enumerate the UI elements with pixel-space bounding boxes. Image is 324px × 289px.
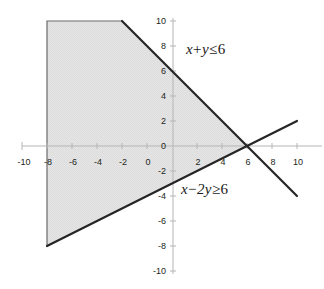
xtick-label: 6 <box>245 157 250 167</box>
xtick-label: 8 <box>270 157 275 167</box>
xtick-label: 2 <box>195 157 200 167</box>
inequality-1-var1: x <box>186 41 193 57</box>
xtick-label: 4 <box>220 157 225 167</box>
ytick-label: 8 <box>140 41 166 51</box>
inequality-label-2: x−2y≥6 <box>181 181 228 198</box>
inequality-2-relation: ≥ <box>212 181 221 197</box>
ytick-label: -10 <box>140 266 166 276</box>
ytick-label: 6 <box>140 66 166 76</box>
xtick-label: -8 <box>44 157 52 167</box>
ytick-label: 2 <box>140 116 166 126</box>
ytick-label: 10 <box>140 16 166 26</box>
inequality-label-1: x+y≤6 <box>186 41 226 58</box>
ytick-label: -6 <box>140 216 166 226</box>
graph-figure: -10 -8 -6 -4 -2 0 2 4 6 8 10 10 8 6 4 2 … <box>0 0 324 289</box>
inequality-2-var1: x <box>181 181 188 197</box>
xtick-label: 10 <box>293 157 303 167</box>
inequality-1-relation: ≤ <box>209 41 218 57</box>
xtick-label: -2 <box>119 157 127 167</box>
ytick-label: 0 <box>140 141 166 151</box>
inequality-2-rhs: 6 <box>221 181 229 197</box>
xtick-label: -6 <box>69 157 77 167</box>
inequality-1-var2: y <box>202 41 209 57</box>
inequality-2-operator: − <box>188 181 197 197</box>
inequality-1-rhs: 6 <box>218 41 226 57</box>
ytick-label: -8 <box>140 241 166 251</box>
xtick-label: -4 <box>94 157 102 167</box>
xtick-label: -10 <box>17 157 30 167</box>
inequality-2-var2: 2y <box>197 181 212 197</box>
ytick-label: -4 <box>140 191 166 201</box>
ytick-label: -2 <box>140 166 166 176</box>
inequality-1-operator: + <box>193 41 202 57</box>
ytick-label: 4 <box>140 91 166 101</box>
